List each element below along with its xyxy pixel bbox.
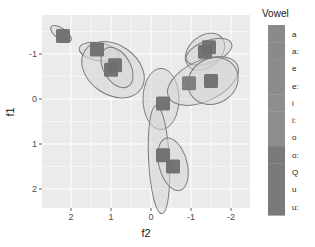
point-o-long bbox=[108, 58, 122, 72]
x-tick-label: -1 bbox=[187, 212, 195, 222]
x-axis: 210-1-2 bbox=[68, 208, 235, 222]
legend-key bbox=[268, 77, 285, 95]
x-axis-title: f2 bbox=[141, 227, 150, 239]
legend-label: i bbox=[292, 99, 294, 108]
legend-key bbox=[268, 198, 285, 216]
y-axis: -1012 bbox=[29, 49, 42, 194]
legend-label: i: bbox=[292, 116, 296, 125]
legend-key bbox=[268, 129, 285, 147]
vowel-formant-chart: 210-1-2 -1012 f2 f1 Vowel aa:ee:ii:oo:Qu… bbox=[0, 0, 315, 247]
y-tick-label: -1 bbox=[29, 49, 37, 59]
y-axis-title: f1 bbox=[4, 107, 16, 116]
legend-key bbox=[268, 60, 285, 78]
legend-label: u bbox=[292, 185, 296, 194]
legend-title: Vowel bbox=[262, 8, 289, 19]
legend-label: e bbox=[292, 64, 297, 73]
legend-items: aa:ee:ii:oo:Quu: bbox=[268, 25, 299, 216]
legend-key bbox=[268, 163, 285, 181]
legend-key bbox=[268, 146, 285, 164]
legend-key bbox=[268, 42, 285, 60]
x-tick-label: 2 bbox=[68, 212, 73, 222]
legend-key bbox=[268, 94, 285, 112]
y-tick-label: 1 bbox=[32, 139, 37, 149]
legend-label: e: bbox=[292, 82, 299, 91]
point-e bbox=[182, 76, 196, 90]
legend-key bbox=[268, 181, 285, 199]
y-tick-label: 0 bbox=[32, 94, 37, 104]
y-tick-label: 2 bbox=[32, 184, 37, 194]
legend-key bbox=[268, 25, 285, 43]
point-e-long bbox=[204, 74, 218, 88]
x-tick-label: 1 bbox=[108, 212, 113, 222]
point-a-long bbox=[166, 160, 180, 174]
x-tick-label: 0 bbox=[148, 212, 153, 222]
legend-label: u: bbox=[292, 203, 299, 212]
legend-label: Q bbox=[292, 168, 298, 177]
legend-label: a bbox=[292, 30, 297, 39]
point-Q bbox=[156, 97, 170, 111]
legend-label: a: bbox=[292, 47, 299, 56]
point-u-long bbox=[56, 29, 70, 43]
legend-key bbox=[268, 112, 285, 130]
legend-label: o: bbox=[292, 151, 299, 160]
legend-label: o bbox=[292, 133, 297, 142]
point-u bbox=[90, 43, 104, 57]
point-i-long bbox=[202, 40, 216, 54]
x-tick-label: -2 bbox=[227, 212, 235, 222]
legend: Vowel aa:ee:ii:oo:Quu: bbox=[262, 8, 299, 216]
